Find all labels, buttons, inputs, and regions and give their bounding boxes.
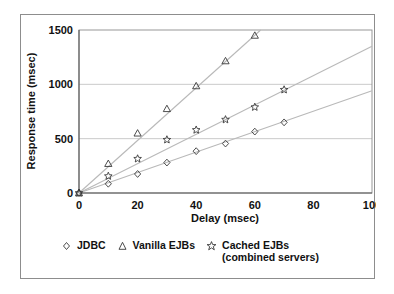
- x-axis-title: Delay (msec): [191, 212, 259, 224]
- y-tick-label-0: 0: [67, 187, 73, 199]
- legend-label-cached-ejbs: Cached EJBs (combined servers): [222, 239, 340, 263]
- legend-item-vanilla-ejbs: Vanilla EJBs: [117, 239, 195, 252]
- plot-area-background: [79, 30, 372, 193]
- x-tick-label-40: 40: [190, 199, 202, 211]
- y-axis-title: Response time (msec): [25, 52, 37, 169]
- x-axis-tick-labels: 020406080100: [76, 199, 376, 211]
- y-axis-tick-labels: 050010001500: [49, 24, 73, 199]
- chart-figure-frame: 050010001500 020406080100 Delay (msec) R…: [20, 14, 375, 279]
- triangle-marker-icon: [117, 240, 128, 252]
- x-tick-label-100: 100: [363, 199, 376, 211]
- legend-item-cached-ejbs: Cached EJBs (combined servers): [206, 239, 340, 263]
- star-marker-icon: [206, 240, 217, 252]
- y-tick-label-1000: 1000: [49, 78, 73, 90]
- x-tick-label-20: 20: [131, 199, 143, 211]
- y-tick-label-1500: 1500: [49, 24, 73, 36]
- legend-item-jdbc: JDBC: [61, 239, 106, 252]
- y-tick-label-500: 500: [55, 133, 73, 145]
- legend-label-jdbc: JDBC: [77, 239, 106, 251]
- x-tick-label-60: 60: [249, 199, 261, 211]
- x-tick-label-0: 0: [76, 199, 82, 211]
- x-tick-label-80: 80: [307, 199, 319, 211]
- legend-label-vanilla-ejbs: Vanilla EJBs: [133, 239, 195, 251]
- diamond-marker-icon: [61, 240, 72, 252]
- chart-legend: JDBC Vanilla EJBs Cached EJBs (combined …: [61, 239, 361, 263]
